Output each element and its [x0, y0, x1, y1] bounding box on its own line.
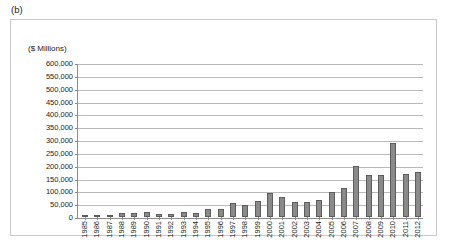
y-axis-tick-label: 300,000 [46, 137, 73, 145]
x-axis-tick-label: 1998 [241, 221, 249, 238]
x-axis-tick-mark [171, 217, 172, 220]
bar-group: 2007 [350, 64, 362, 217]
x-axis-tick-mark [307, 217, 308, 220]
bar-group: 1999 [252, 64, 264, 217]
x-axis-tick-label: 1999 [254, 221, 262, 238]
x-axis-tick-mark [270, 217, 271, 220]
x-axis-tick-label: 1995 [204, 221, 212, 238]
bar [242, 205, 248, 217]
y-axis-tick-mark [75, 77, 78, 78]
bar [378, 175, 384, 217]
x-axis-tick-mark [295, 217, 296, 220]
y-axis-tick-mark [75, 103, 78, 104]
y-axis-tick-label: 100,000 [46, 188, 73, 196]
y-axis-tick-mark [75, 205, 78, 206]
x-axis-tick-mark [221, 217, 222, 220]
bar [415, 172, 421, 217]
bar-group: 1991 [153, 64, 165, 217]
bar-group: 1990 [141, 64, 153, 217]
x-axis-tick-mark [319, 217, 320, 220]
bar [267, 193, 273, 217]
x-axis-tick-mark [159, 217, 160, 220]
y-axis-unit-label: ($ Millions) [28, 44, 67, 54]
bar-group: 1994 [190, 64, 202, 217]
x-axis-tick-label: 2009 [377, 221, 385, 238]
bar-group: 1993 [178, 64, 190, 217]
y-axis-tick-label: 200,000 [46, 163, 73, 171]
x-axis-tick-label: 2005 [328, 221, 336, 238]
x-axis-tick-label: 2007 [352, 221, 360, 238]
y-axis-tick-label: 50,000 [50, 201, 73, 209]
x-axis-tick-mark [233, 217, 234, 220]
y-axis-tick-label: 0 [69, 214, 73, 222]
x-axis-tick-mark [356, 217, 357, 220]
bar [390, 143, 396, 217]
y-axis-tick-mark [75, 167, 78, 168]
bar [403, 174, 409, 217]
x-axis-tick-label: 1996 [217, 221, 225, 238]
bar [366, 175, 372, 217]
x-axis-tick-label: 1985 [81, 221, 89, 238]
x-axis-tick-mark [122, 217, 123, 220]
x-axis-tick-label: 1986 [93, 221, 101, 238]
y-axis-tick-mark [75, 64, 78, 65]
bar-group: 1995 [202, 64, 214, 217]
bar-group: 2011 [399, 64, 411, 217]
bar-group: 2010 [387, 64, 399, 217]
bar-group: 1987 [104, 64, 116, 217]
x-axis-tick-label: 1992 [167, 221, 175, 238]
x-axis-tick-mark [258, 217, 259, 220]
y-axis-tick-mark [75, 180, 78, 181]
bar [329, 192, 335, 217]
x-axis-tick-label: 2012 [414, 221, 422, 238]
y-axis-tick-mark [75, 218, 78, 219]
figure-panel-b: (b) ($ Millions) 600,000550,000500,00045… [0, 0, 450, 250]
bar-group: 1986 [91, 64, 103, 217]
x-axis-tick-label: 2003 [303, 221, 311, 238]
y-axis-tick-label: 600,000 [46, 60, 73, 68]
x-axis-tick-mark [97, 217, 98, 220]
bar [353, 166, 359, 217]
x-axis-tick-mark [147, 217, 148, 220]
y-axis-tick-label: 450,000 [46, 99, 73, 107]
bar-series: 1985198619871988198919901991199219931994… [79, 64, 423, 217]
x-axis-tick-label: 1990 [143, 221, 151, 238]
bar [279, 197, 285, 217]
x-axis-tick-label: 1991 [155, 221, 163, 238]
y-axis-tick-label: 350,000 [46, 124, 73, 132]
x-axis-tick-label: 2008 [365, 221, 373, 238]
bar-group: 2006 [338, 64, 350, 217]
x-axis-tick-mark [196, 217, 197, 220]
bar-group: 2009 [375, 64, 387, 217]
bar [341, 188, 347, 217]
bar [316, 200, 322, 217]
x-axis-tick-mark [208, 217, 209, 220]
y-axis-tick-mark [75, 141, 78, 142]
bar-group: 2005 [325, 64, 337, 217]
y-axis-tick-label: 150,000 [46, 176, 73, 184]
x-axis-tick-label: 2001 [278, 221, 286, 238]
x-axis-tick-label: 1987 [106, 221, 114, 238]
x-axis-tick-mark [418, 217, 419, 220]
x-axis-tick-mark [110, 217, 111, 220]
x-axis-tick-mark [184, 217, 185, 220]
x-axis-tick-label: 1988 [118, 221, 126, 238]
x-axis-tick-mark [85, 217, 86, 220]
plot-area: 600,000550,000500,000450,000400,000350,0… [77, 64, 423, 219]
bar [218, 209, 224, 217]
y-axis-tick-label: 500,000 [46, 86, 73, 94]
x-axis-tick-label: 1997 [229, 221, 237, 238]
y-axis-tick-mark [75, 128, 78, 129]
panel-label: (b) [11, 4, 23, 15]
bar-group: 2000 [264, 64, 276, 217]
bar [205, 209, 211, 217]
y-axis-tick-mark [75, 115, 78, 116]
x-axis-tick-label: 1993 [180, 221, 188, 238]
y-axis-tick-mark [75, 90, 78, 91]
bar-group: 2004 [313, 64, 325, 217]
y-axis-tick-label: 250,000 [46, 150, 73, 158]
x-axis-tick-label: 2011 [402, 221, 410, 237]
bar-group: 1997 [227, 64, 239, 217]
x-axis-tick-mark [369, 217, 370, 220]
bar-group: 2008 [362, 64, 374, 217]
